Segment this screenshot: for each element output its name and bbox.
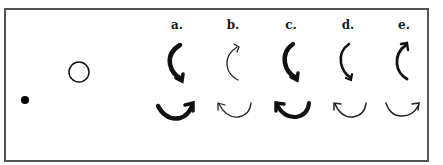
arrow-d-bottom-icon xyxy=(334,103,366,117)
arrow-e-top-icon xyxy=(397,43,408,79)
arrow-b-top-icon xyxy=(227,44,239,80)
arrow-e-bottom-icon xyxy=(386,103,419,116)
arrow-b-bottom-icon xyxy=(218,103,251,117)
figure-frame xyxy=(5,9,428,161)
open-circle-icon xyxy=(69,62,89,82)
arrow-a-bottom-icon xyxy=(158,103,193,119)
arrow-a-top-icon xyxy=(170,45,183,81)
arrow-c-bottom-icon xyxy=(276,103,309,117)
column-label-a: a. xyxy=(171,19,183,31)
column-label-c: c. xyxy=(285,19,296,31)
column-label-d: d. xyxy=(342,19,355,31)
arrow-c-top-icon xyxy=(285,44,298,80)
figure: a. b. c. d. e. xyxy=(0,0,443,165)
filled-dot-icon xyxy=(21,96,29,104)
column-label-e: e. xyxy=(398,19,410,31)
arrow-d-top-icon xyxy=(341,44,352,80)
column-label-b: b. xyxy=(227,19,240,31)
figure-canvas xyxy=(0,0,443,165)
